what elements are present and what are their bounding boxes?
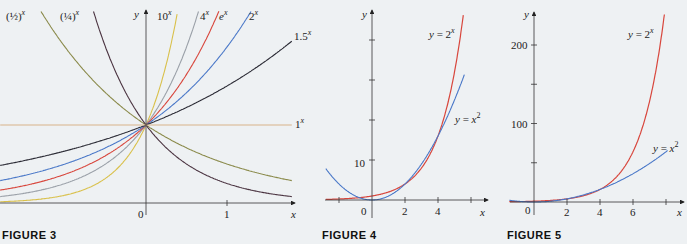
fig4-tick-label-4: 4 xyxy=(435,205,441,217)
fig3-x-label: x xyxy=(290,208,296,220)
fig4-tick-label-0: 0 xyxy=(361,205,367,217)
fig5-label-x2: y = x2 xyxy=(652,140,679,154)
curve xyxy=(0,12,198,197)
fig5-tick-label-0: 0 xyxy=(525,204,531,216)
fig5-x-label: x xyxy=(676,206,682,218)
curve xyxy=(509,15,664,202)
fig5-y-label: y xyxy=(523,8,529,20)
fig4-tick-label-10: 10 xyxy=(354,157,366,169)
fig5-tick-label-100: 100 xyxy=(511,118,528,130)
label-2-x: 2x xyxy=(249,8,259,22)
figure-4: 0 2 4 10 x y y = 2x y = x2 xyxy=(325,8,488,218)
fig5-tick-label-4: 4 xyxy=(597,206,603,218)
fig4-ticks xyxy=(339,40,471,203)
curve xyxy=(326,75,465,200)
fig3-tick-label-0: 0 xyxy=(138,208,144,220)
label-e-x: ex xyxy=(219,8,228,22)
fig5-ticks xyxy=(531,45,666,205)
figures-canvas: 0 1 x y (½)x (¼)x 10x 4x ex 2x 1.5x 1x 0… xyxy=(0,0,687,244)
fig5-tick-label-200: 200 xyxy=(511,39,528,51)
fig5-label-2x: y = 2x xyxy=(627,26,654,40)
figure-3-caption: FIGURE 3 xyxy=(2,229,57,241)
fig4-label-2x: y = 2x xyxy=(428,26,455,40)
figure-4-curves xyxy=(326,15,465,200)
figure-4-caption: FIGURE 4 xyxy=(322,229,377,241)
fig4-tick-label-2: 2 xyxy=(402,205,408,217)
fig5-tick-label-2: 2 xyxy=(564,206,570,218)
curve xyxy=(41,12,292,181)
figure-5-curves xyxy=(509,15,667,203)
label-quarter-x: (¼)x xyxy=(60,8,80,23)
fig4-x-label: x xyxy=(479,206,485,218)
fig4-label-x2: y = x2 xyxy=(454,111,481,125)
fig5-tick-label-6: 6 xyxy=(630,206,636,218)
fig4-y-label: y xyxy=(361,8,367,20)
label-4-x: 4x xyxy=(200,8,210,22)
figure-3: 0 1 x y (½)x (¼)x 10x 4x ex 2x 1.5x 1x xyxy=(0,8,312,220)
curve xyxy=(0,12,251,181)
figure-5-caption: FIGURE 5 xyxy=(507,229,562,241)
figure-5: 0 2 4 6 100 200 x y y = 2x y = x2 xyxy=(509,8,684,218)
label-10-x: 10x xyxy=(157,8,172,22)
label-1.5-x: 1.5x xyxy=(294,28,312,42)
fig3-tick-label-1: 1 xyxy=(224,208,230,220)
curve xyxy=(326,15,464,199)
label-1-x: 1x xyxy=(295,116,305,130)
label-half-x: (½)x xyxy=(6,8,26,23)
fig3-y-label: y xyxy=(133,8,139,20)
